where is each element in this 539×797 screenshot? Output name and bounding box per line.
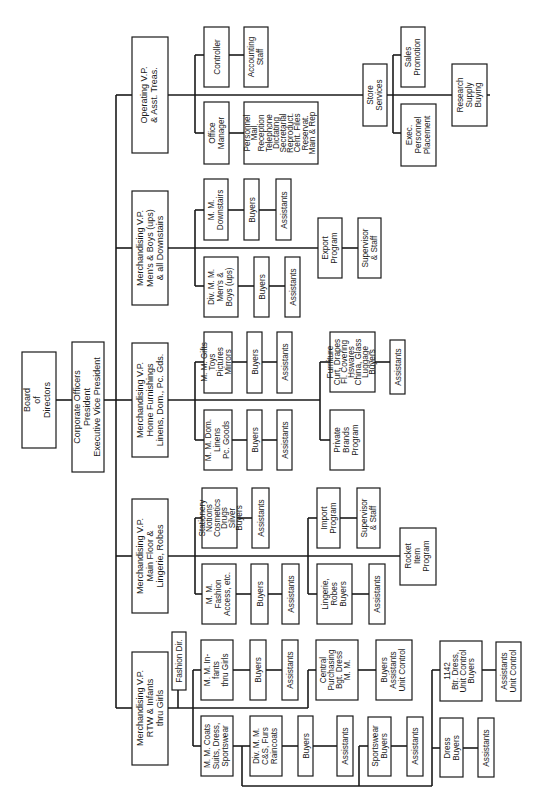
svg-text:Div. M. M.Men's &Boys (ups): Div. M. M.Men's &Boys (ups) xyxy=(207,267,234,306)
box-stationery-buyers: StationeryNotionsCosmeticsDrugsSilverBuy… xyxy=(198,488,245,548)
box-export-program: ExportProgram xyxy=(318,218,342,278)
box-office-services: PersonnelMailReceptionTelephoneDictating… xyxy=(243,102,318,164)
svg-text:Assistants: Assistants xyxy=(373,575,382,612)
box-lingerie-assistants: Assistants xyxy=(369,564,385,624)
box-stationery-assistants: Assistants xyxy=(252,488,269,548)
svg-text:Buyers: Buyers xyxy=(248,197,257,222)
svg-text:Controller: Controller xyxy=(213,39,222,75)
svg-text:Assistants: Assistants xyxy=(281,421,290,458)
svg-text:PrivateBrandsProgram: PrivateBrandsProgram xyxy=(333,424,360,456)
box-import-program: ImportProgram xyxy=(317,488,340,548)
box-operating-vp: Operating V.P.& Asst. Treas. xyxy=(132,37,168,153)
box-mm-coats: M. M. CoatsSuits, Dress,Sportswear xyxy=(201,716,233,776)
svg-text:ExportProgram: ExportProgram xyxy=(321,232,339,264)
box-mm-downstairs-buyers: Buyers xyxy=(244,179,259,240)
box-export-supervisor: Supervisor& Staff xyxy=(358,218,381,278)
svg-text:Assistants: Assistants xyxy=(257,499,266,536)
box-mm-fashion-assistants: Assistants xyxy=(282,564,299,624)
svg-text:Lingerie,RobesBuyers: Lingerie,RobesBuyers xyxy=(321,578,348,609)
svg-text:Assistants: Assistants xyxy=(286,651,295,688)
box-private-brands: PrivateBrandsProgram xyxy=(330,410,364,470)
svg-text:AssistantsUnit Control: AssistantsUnit Control xyxy=(500,649,518,692)
box-mens-vp: Merchandising V.P.Men's & Boys (ups)& al… xyxy=(132,191,168,305)
svg-text:DressBuyers: DressBuyers xyxy=(443,735,461,760)
svg-text:M. M. CoatsSuits, Dress,Sports: M. M. CoatsSuits, Dress,Sportswear xyxy=(203,723,230,769)
svg-text:Assistants: Assistants xyxy=(394,348,403,385)
svg-text:ImportProgram: ImportProgram xyxy=(320,502,338,534)
box-office-manager: OfficeManager xyxy=(204,102,229,164)
box-mm-gifts: M. M. GiftsToysPicturesMirrors xyxy=(200,332,233,393)
box-store-services: StoreServices xyxy=(363,64,387,126)
box-import-supervisor: Supervisor& Staff xyxy=(357,488,380,548)
svg-text:Buyers: Buyers xyxy=(254,657,263,682)
svg-text:Buyers: Buyers xyxy=(251,427,260,452)
box-div-furs: Div. M. M.C&S, FursRaincoats xyxy=(250,716,282,776)
box-mm-fashion: M. M.FashionAccess, etc. xyxy=(202,564,236,624)
box-mm-infants-assistants: Assistants xyxy=(282,640,298,700)
svg-text:Merchandising V.P.Home Furnish: Merchandising V.P.Home FurnishingsLinens… xyxy=(135,354,165,447)
box-mm-gifts-buyers: Buyers xyxy=(247,332,262,393)
box-div-furs-assistants: Assistants xyxy=(337,716,353,776)
box-home-vp: Merchandising V.P.Home FurnishingsLinens… xyxy=(132,343,168,457)
box-sportswear-buyers: SportswearBuyers xyxy=(368,717,391,776)
box-corporate-officers: Corporate OfficersPresidentExecutive Vic… xyxy=(72,342,104,472)
svg-text:Buyers: Buyers xyxy=(256,581,265,606)
box-mm-dom-assistants: Assistants xyxy=(277,410,292,470)
svg-text:Operating V.P.& Asst. Treas.: Operating V.P.& Asst. Treas. xyxy=(139,66,159,123)
box-furniture-buyers: FurnitureCurt, DrapesFl. CoveringHswares… xyxy=(326,332,377,392)
svg-text:Assistants: Assistants xyxy=(482,729,491,766)
box-mm-fashion-buyers: Buyers xyxy=(251,564,268,624)
org-chart: BoardofDirectors Corporate OfficersPresi… xyxy=(0,0,539,797)
box-div-furs-buyers: Buyers xyxy=(298,716,313,776)
svg-text:Div. M. M.C&S, FursRaincoats: Div. M. M.C&S, FursRaincoats xyxy=(252,727,279,765)
box-controller: Controller xyxy=(204,27,229,87)
svg-text:Merchandising V.P.Men's & Boys: Merchandising V.P.Men's & Boys (ups)& al… xyxy=(135,209,165,287)
box-mm-dom-linens: M. M. Dom.LinensPc. Goods xyxy=(204,410,232,470)
svg-text:Assistants: Assistants xyxy=(411,727,420,764)
box-mm-dom-buyers: Buyers xyxy=(247,410,262,470)
svg-text:Assistants: Assistants xyxy=(280,191,289,228)
box-div-mens: Div. M. M.Men's &Boys (ups) xyxy=(204,257,238,317)
box-mm-infants-buyers: Buyers xyxy=(250,640,266,700)
box-rtw-vp: Merchandising V.P.RTW & Infantsthru Girl… xyxy=(132,652,168,765)
box-dress-buyers: DressBuyers xyxy=(440,718,463,777)
svg-text:Buyers: Buyers xyxy=(302,733,311,758)
box-mm-gifts-assistants: Assistants xyxy=(277,332,292,393)
box-lingerie-buyers: Lingerie,RobesBuyers xyxy=(317,564,352,624)
box-central-purchasing-staff: BuyersAssistantsUnit Control xyxy=(376,640,412,700)
box-rocket-item: RocketItemProgram xyxy=(400,528,436,585)
svg-text:Assistants: Assistants xyxy=(289,268,298,305)
box-btr-dress-assistants: AssistantsUnit Control xyxy=(496,642,521,701)
svg-text:Assistants: Assistants xyxy=(287,575,296,612)
box-main-floor-vp: Merchandising V.P.Main Floor &Lingerie, … xyxy=(132,499,168,613)
box-div-mens-buyers: Buyers xyxy=(254,257,269,317)
svg-text:Assistants: Assistants xyxy=(281,343,290,380)
box-mm-downstairs-assistants: Assistants xyxy=(276,179,291,240)
box-central-purchasing: CentralPurchasingBgt. DressM. M. xyxy=(316,640,358,700)
svg-text:Buyers: Buyers xyxy=(258,274,267,299)
box-accounting-staff: AccountingStaff xyxy=(244,27,268,87)
box-sportswear-assistants: Assistants xyxy=(407,717,423,776)
box-fashion-director: Fashion Dir. xyxy=(172,632,186,690)
box-mm-downstairs: M. M.Downstairs xyxy=(204,179,228,240)
svg-text:Buyers: Buyers xyxy=(251,349,260,374)
svg-text:Fashion Dir.: Fashion Dir. xyxy=(175,639,184,683)
box-div-mens-assistants: Assistants xyxy=(285,257,300,317)
box-sales-promotion: SalesPromotion xyxy=(401,27,425,87)
box-research-supply: ResearchSupplyBuying xyxy=(452,64,487,126)
box-btr-dress: 1142Btr. Dress,Unit ControlBuyers xyxy=(440,641,482,701)
svg-text:Assistants: Assistants xyxy=(341,727,350,764)
box-dress-assistants: Assistants xyxy=(478,718,494,777)
box-furniture-assistants: Assistants xyxy=(390,340,405,394)
box-board: BoardofDirectors xyxy=(22,352,56,448)
box-exec-personnel: Exec.PersonnelPlacement xyxy=(401,104,436,166)
box-mm-infants: M. M. In-fantsthru Girls xyxy=(201,640,233,700)
